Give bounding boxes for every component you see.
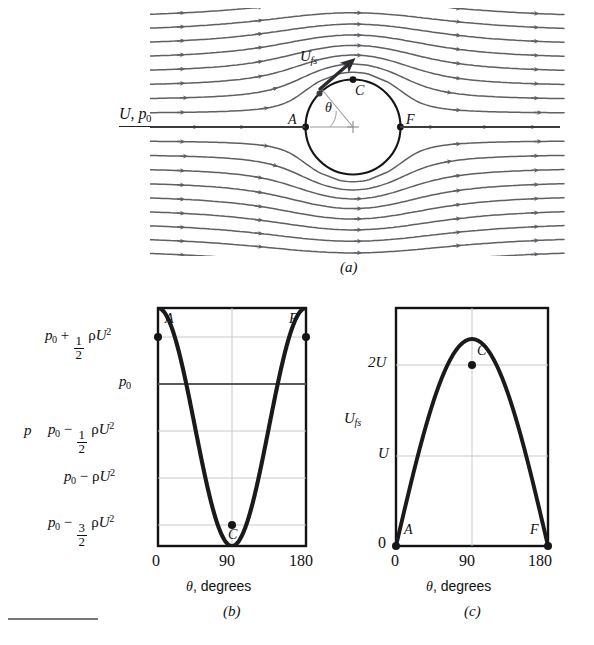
panel-c-point-F <box>544 542 552 550</box>
streamline-arrow <box>453 232 459 233</box>
streamline <box>150 24 564 42</box>
panel-c-caption: (c) <box>464 603 481 620</box>
panel-c-label-C: C <box>477 343 486 359</box>
streamline-arrow <box>255 246 261 247</box>
streamline-arrow <box>255 206 261 207</box>
streamline-arrow <box>255 219 261 220</box>
panel-b-ytick-2: p0 − 12 ρU2 <box>48 421 114 457</box>
panel-a-label-A: A <box>288 112 297 128</box>
panel-b-xtick-90: 90 <box>219 552 235 570</box>
point-theta-marker <box>317 91 323 97</box>
panel-c-xtick-180: 180 <box>528 552 552 570</box>
streamline-arrow <box>453 21 459 22</box>
streamline-arrow <box>255 34 261 35</box>
panel-b-ytick-1: p0 <box>119 374 131 391</box>
streamline-arrow <box>255 47 261 48</box>
panel-a-caption: (a) <box>340 259 358 276</box>
streamline-arrow <box>270 164 276 166</box>
streamline-arrow <box>453 35 459 36</box>
streamline-arrow <box>261 145 267 146</box>
streamline <box>150 212 564 230</box>
panel-b-label-F: F <box>289 311 298 327</box>
streamline-arrow <box>255 20 261 21</box>
streamline-arrow <box>255 233 261 234</box>
streamline-arrow <box>453 190 459 191</box>
streamline <box>150 13 564 29</box>
panel-a-label-C: C <box>355 83 364 99</box>
panel-c-ytick-U: U <box>378 446 389 461</box>
panel-b-label-C: C <box>228 527 237 543</box>
panel-b-point-A <box>154 333 162 341</box>
panel-b-point-F <box>302 333 310 341</box>
panel-b-label-A: A <box>165 311 174 327</box>
panel-c-ytick-0: 0 <box>378 534 386 552</box>
streamline-arrow <box>261 108 267 109</box>
panel-b-x-axis-name: θ, degrees <box>186 578 251 595</box>
panel-c-y-axis-name: Ufs <box>344 411 361 428</box>
panel-c-label-F: F <box>530 522 539 538</box>
inflow-condition-label: U, p0 <box>119 106 151 127</box>
panel-c-point-A <box>392 542 400 550</box>
streamline-arrow <box>453 78 459 79</box>
panel-c-label-A: A <box>404 522 413 538</box>
streamline <box>150 0 564 1</box>
streamline <box>150 45 564 70</box>
streamline-arrow <box>453 219 459 220</box>
panel-b-y-axis-name: p <box>24 423 32 438</box>
streamline-arrow <box>453 176 459 177</box>
point-C-marker <box>350 76 357 83</box>
streamline <box>150 184 564 209</box>
panel-b-ytick-3: p0 − ρU2 <box>64 468 115 486</box>
panel-b-ytick-4: p0 − 32 ρU2 <box>48 514 114 550</box>
figure-root: U, p0 Ufs A C F θ (a) p p0 + 12 ρU2 p0 p… <box>0 0 594 645</box>
streamline-arrow <box>453 49 459 50</box>
panel-b-xtick-0: 0 <box>152 552 160 570</box>
panel-b-xtick-180: 180 <box>289 552 313 570</box>
surface-velocity-label: Ufs <box>300 49 317 66</box>
panel-a-label-F: F <box>406 112 415 128</box>
panel-b-caption: (b) <box>223 603 241 620</box>
panel-c-point-C <box>468 361 476 369</box>
panel-c-xtick-0: 0 <box>391 552 399 570</box>
panel-b-ytick-0: p0 + 12 ρU2 <box>45 327 111 363</box>
panel-c-ytick-2U: 2U <box>368 355 386 370</box>
streamline-arrow <box>453 246 459 247</box>
panel-c-x-axis-name: θ, degrees <box>426 578 491 595</box>
streamline-arrow <box>453 205 459 206</box>
streamline-arrow <box>255 7 261 8</box>
panel-c-xtick-90: 90 <box>459 552 475 570</box>
streamline-arrow <box>453 8 459 9</box>
streamline-arrow <box>453 63 459 64</box>
streamline-arrow <box>270 88 276 90</box>
streamline <box>150 226 564 242</box>
panel-a-angle-label: θ <box>325 100 332 116</box>
